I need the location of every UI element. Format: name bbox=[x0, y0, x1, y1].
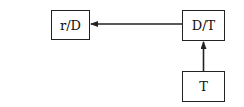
node-d-over-t: D/T bbox=[182, 10, 225, 41]
node-r-over-d: r/D bbox=[51, 10, 90, 40]
node-d-over-t-label: D/T bbox=[192, 18, 215, 33]
node-t-label: T bbox=[199, 79, 208, 94]
node-r-over-d-label: r/D bbox=[60, 18, 81, 33]
node-t: T bbox=[182, 71, 225, 102]
